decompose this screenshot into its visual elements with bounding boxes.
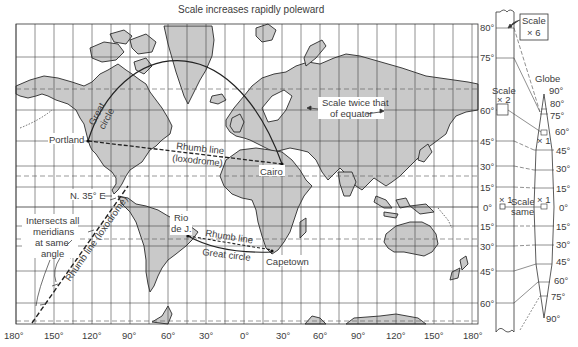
label-rio-1: Rio	[174, 212, 188, 223]
label-intersects-4: angle	[41, 248, 64, 259]
capetown-point	[270, 249, 273, 252]
scale-x2-box	[497, 104, 508, 115]
lon-tick: 0°	[240, 330, 249, 341]
label-scale-x2-2: × 2	[497, 94, 510, 105]
lon-tick: 120°	[386, 330, 406, 341]
globe-tick: 30°	[556, 239, 571, 250]
label-intersects-3: at same	[35, 237, 69, 248]
globe-tick: 45°	[556, 256, 571, 267]
label-x1-right: × 1	[537, 194, 550, 205]
lon-tick: 90°	[122, 330, 137, 341]
label-scale-x6-1: Scale	[522, 15, 546, 26]
globe-tick: 30°	[556, 163, 571, 174]
portland-point	[86, 139, 89, 142]
lat-tick: 45°	[480, 266, 495, 277]
label-intersects-2: meridians	[33, 226, 74, 237]
lon-tick: 60°	[161, 330, 176, 341]
lon-tick: 30°	[276, 330, 291, 341]
lat-tick: 30°	[480, 161, 495, 172]
lon-tick: 120°	[82, 330, 102, 341]
lat-tick: 30°	[480, 241, 495, 252]
globe-tick: 15°	[556, 183, 571, 194]
globe-tick: 60°	[554, 275, 569, 286]
lat-tick: 15°	[480, 182, 495, 193]
lat-tick: 80°	[480, 22, 495, 33]
lat-tick: 0°	[483, 202, 492, 213]
label-rio-2: de J.	[171, 223, 192, 234]
label-intersects-1: Intersects all	[26, 215, 79, 226]
india	[338, 172, 356, 196]
globe-tick: 0°	[559, 202, 568, 213]
globe-tick: 15°	[556, 221, 571, 232]
greenland	[164, 26, 214, 104]
label-globe: Globe	[535, 73, 560, 84]
mercator-strip: Scale × 2 × 1	[492, 10, 516, 332]
lat-tick: 45°	[480, 136, 495, 147]
label-capetown: Capetown	[266, 256, 309, 267]
label-scale-twice-2: of equator	[330, 108, 373, 119]
lat-tick: 75°	[480, 52, 495, 63]
label-scale-same-2: same	[511, 206, 534, 217]
lon-tick: 90°	[351, 330, 366, 341]
label-scale-twice-1: Scale twice that	[322, 97, 389, 108]
globe-tick: 80°	[550, 98, 565, 109]
globe-tick: 75°	[551, 291, 566, 302]
lon-tick: 150°	[424, 330, 444, 341]
lon-tick: 180°	[4, 330, 24, 341]
lon-tick: 30°	[199, 330, 214, 341]
label-portland: Portland	[49, 134, 84, 145]
north-america	[16, 64, 172, 194]
globe-tick: 60°	[555, 126, 570, 137]
lon-tick: 180°	[463, 330, 483, 341]
iceland	[210, 94, 226, 104]
globe-tick: 45°	[556, 145, 571, 156]
landmasses	[16, 24, 478, 324]
label-cairo: Cairo	[260, 166, 283, 177]
lat-tick: 60°	[480, 298, 495, 309]
label-scale-x6-2: × 6	[527, 27, 540, 38]
novaya-zemlya	[304, 40, 326, 66]
longitude-axis: 180° 150° 120° 90° 60° 30° 0° 30° 60° 90…	[4, 330, 483, 341]
label-globe-x1: × 1	[537, 135, 550, 146]
antarctica-east	[305, 314, 426, 324]
lon-tick: 150°	[44, 330, 64, 341]
label-bearing: N. 35° E	[70, 190, 105, 201]
lon-tick: 60°	[313, 330, 328, 341]
lat-tick: 15°	[480, 221, 495, 232]
mercator-projection-diagram: Scale increases rapidly poleward	[0, 0, 578, 347]
latitude-axis: 80° 75° 60° 45° 30° 15° 0° 15° 30° 45° 6…	[480, 22, 495, 309]
globe-tick: 90°	[549, 85, 564, 96]
globe-tick: 90°	[546, 313, 561, 324]
svalbard	[256, 24, 276, 42]
new-zealand	[450, 256, 468, 280]
diagram-title: Scale increases rapidly poleward	[178, 4, 324, 15]
lat-tick: 60°	[480, 105, 495, 116]
globe-tick: 75°	[550, 110, 565, 121]
